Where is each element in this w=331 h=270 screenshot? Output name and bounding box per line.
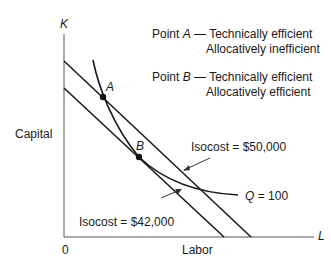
arrowhead-icon bbox=[183, 165, 190, 171]
point-a-note: Point A — Technically efficient bbox=[152, 27, 312, 41]
isocost-50000-label: Isocost = $50,000 bbox=[191, 140, 286, 154]
note-line1: Technically efficient bbox=[209, 70, 312, 84]
point-a-label: A bbox=[106, 80, 114, 94]
point-b-note: Point B — Technically efficient bbox=[152, 70, 312, 84]
note-point-name: A bbox=[183, 27, 191, 41]
isocost-42000-label: Isocost = $42,000 bbox=[79, 215, 174, 229]
isoquant-label: Q = 100 bbox=[245, 189, 288, 203]
point-a-marker bbox=[100, 94, 106, 100]
note-point-name: B bbox=[183, 70, 191, 84]
note-line1: Technically efficient bbox=[209, 27, 312, 41]
note-dash: — bbox=[191, 70, 209, 84]
isoquant-value: = 100 bbox=[258, 189, 288, 203]
note-prefix: Point bbox=[152, 27, 183, 41]
y-axis-label: Capital bbox=[15, 127, 52, 141]
origin-label: 0 bbox=[62, 243, 69, 257]
point-b-label: B bbox=[136, 139, 144, 153]
isoquant-symbol: Q bbox=[245, 189, 254, 203]
point-a-note-line2: Allocatively inefficient bbox=[206, 42, 320, 56]
point-b-marker bbox=[136, 154, 142, 160]
x-axis-label: Labor bbox=[182, 243, 213, 257]
y-axis-symbol: K bbox=[60, 17, 68, 31]
point-b-note-line2: Allocatively efficient bbox=[206, 85, 311, 99]
note-prefix: Point bbox=[152, 70, 183, 84]
note-dash: — bbox=[191, 27, 209, 41]
x-axis-symbol: L bbox=[318, 229, 325, 243]
